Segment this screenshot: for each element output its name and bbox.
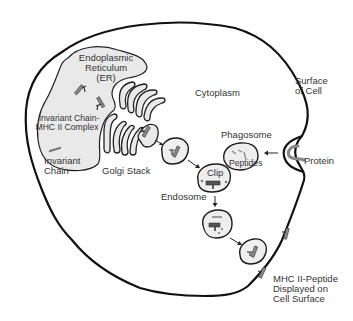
label-endosome: Endosome <box>161 191 206 202</box>
label-phagosome: Phagosome <box>221 129 272 140</box>
label-invariant-2: Chain <box>44 165 69 176</box>
label-surface-2: of Cell <box>295 85 322 96</box>
label-er-3: (ER) <box>96 72 116 83</box>
label-clip: Clip <box>207 167 223 178</box>
mhc-ii-icon <box>209 223 220 227</box>
label-golgi: Golgi Stack <box>102 165 151 176</box>
mhc-clip-complex-icon <box>206 181 220 185</box>
label-protein: Protein <box>304 155 334 166</box>
diagram-canvas: Endoplasmic Reticulum (ER) Invariant Cha… <box>0 0 353 321</box>
label-display-3: Cell Surface <box>273 293 325 304</box>
label-peptides: Peptides <box>229 158 262 168</box>
label-complex-2: MHC II Complex <box>35 122 99 132</box>
label-cytoplasm: Cytoplasm <box>195 87 240 98</box>
